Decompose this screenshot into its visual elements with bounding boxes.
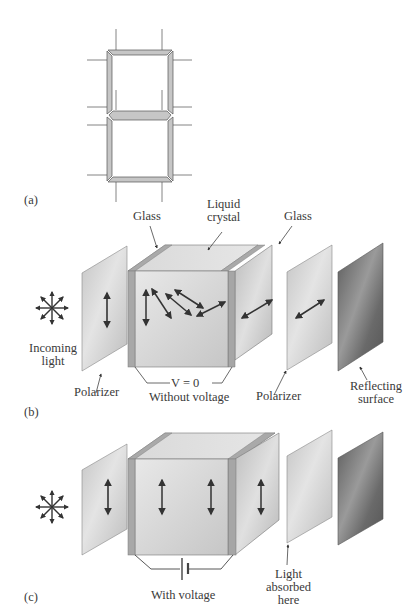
segment-lower-left	[107, 117, 112, 181]
panel-b-without-voltage	[36, 226, 383, 395]
polarizer-left-c	[82, 444, 127, 555]
label-without-voltage: Without voltage	[149, 391, 229, 404]
label-liquid-crystal: Liquid crystal	[207, 198, 240, 224]
segment-bottom	[108, 177, 172, 182]
incoming-light-star-icon	[36, 292, 68, 324]
reflecting-surface	[338, 243, 383, 371]
label-light-absorbed-here: Light absorbed here	[266, 568, 311, 607]
glass-left	[128, 271, 135, 367]
label-polarizer-right: Polarizer	[256, 390, 301, 403]
polarizer-right-c	[287, 430, 332, 543]
label-glass-left: Glass	[133, 210, 161, 223]
lcd-diagram	[0, 0, 414, 609]
label-glass-right: Glass	[284, 210, 312, 223]
segment-lower-right	[168, 117, 173, 181]
liquid-crystal-front	[135, 271, 228, 367]
panel-label-c: (c)	[24, 590, 38, 605]
segment-upper-left	[107, 51, 112, 114]
glass-right-c	[228, 459, 236, 555]
glass-left-c	[128, 459, 135, 555]
reflecting-surface-c	[338, 432, 383, 545]
glass-right	[228, 271, 235, 367]
panel-label-a: (a)	[24, 193, 38, 208]
label-voltage-zero: V = 0	[171, 377, 199, 390]
polarizer-left	[82, 246, 127, 371]
label-incoming-light: Incoming light	[29, 342, 77, 368]
incoming-light-star-icon-c	[36, 491, 68, 523]
polarizer-right	[287, 245, 332, 370]
panel-label-b: (b)	[24, 405, 39, 420]
segment-middle	[109, 111, 171, 120]
label-reflecting-surface: Reflecting surface	[350, 380, 402, 406]
voltage-source	[135, 555, 233, 580]
label-polarizer-left: Polarizer	[74, 386, 119, 399]
label-with-voltage: With voltage	[151, 589, 215, 602]
panel-c-with-voltage	[36, 430, 383, 580]
seven-segment-display	[87, 29, 192, 202]
liquid-crystal-front-c	[135, 459, 228, 555]
segment-upper-right	[168, 51, 173, 114]
segment-top	[108, 50, 172, 55]
